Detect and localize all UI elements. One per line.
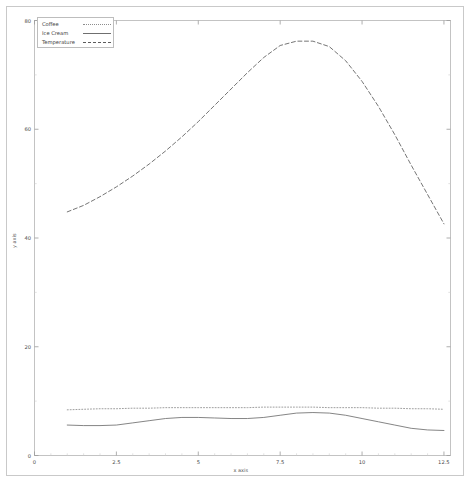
legend-item-ice-cream[interactable]: Ice Cream [42,29,112,38]
legend-swatch-ice-cream [83,33,111,35]
legend-item-temperature[interactable]: Temperature [42,38,112,47]
legend-item-coffee[interactable]: Coffee [42,20,112,29]
chart-figure: 020406080 02.557.51012.5 y axis x axis C… [0,0,471,485]
legend-label-temperature: Temperature [42,38,75,47]
x-tick-label: 10 [348,459,376,465]
series-line-ice-cream [67,413,444,431]
y-tick-label: 60 [14,126,31,132]
legend-swatch-coffee [83,24,111,26]
legend-swatch-temperature [83,42,111,44]
x-tick-label: 7.5 [266,459,294,465]
y-tick-label: 80 [14,18,31,24]
x-axis-title: x axis [234,467,249,473]
y-axis-title: y axis [11,233,17,248]
series-line-coffee [67,407,444,410]
legend-label-ice-cream: Ice Cream [42,29,68,38]
axes-frame [35,21,451,456]
y-tick-label: 20 [14,344,31,350]
x-tick-label: 12.5 [430,459,458,465]
x-tick-label: 5 [184,459,212,465]
legend[interactable]: Coffee Ice Cream Temperature [37,17,114,48]
x-tick-label: 2.5 [102,459,130,465]
plot-canvas [0,0,471,485]
x-tick-label: 0 [21,459,49,465]
axis-ticks [35,21,451,456]
y-tick-label: 0 [14,453,31,459]
series-line-temperature [67,41,444,224]
data-series [67,41,444,430]
legend-label-coffee: Coffee [42,20,59,29]
